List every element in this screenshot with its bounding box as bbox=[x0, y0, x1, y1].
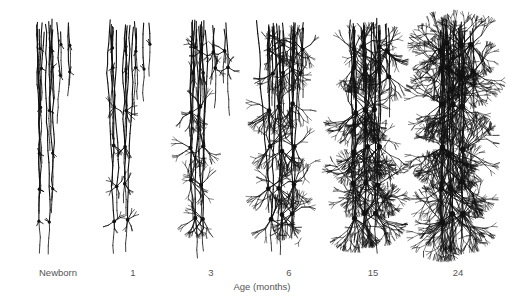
axis-label: Age (months) bbox=[212, 281, 312, 292]
stage-label-15-months: 15 bbox=[343, 267, 403, 278]
stage-label-6-months: 6 bbox=[259, 267, 319, 278]
neuron-development-figure: Newborn 1 3 6 15 24 Age (months) bbox=[0, 0, 524, 304]
stage-label-3-months: 3 bbox=[181, 267, 241, 278]
stage-label-newborn: Newborn bbox=[28, 267, 88, 278]
neuron-drawings bbox=[0, 0, 524, 304]
stage-label-1-month: 1 bbox=[103, 267, 163, 278]
stage-label-24-months: 24 bbox=[428, 267, 488, 278]
